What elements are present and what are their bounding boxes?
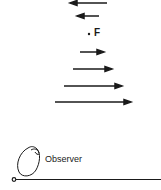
observer-head-icon [18, 147, 40, 176]
arrow-left-2 [77, 14, 99, 19]
arrow-right-1 [80, 50, 104, 55]
arrow-right-2 [73, 67, 112, 72]
ground-line [12, 178, 161, 182]
observer-label: Observer [45, 154, 82, 164]
arrow-right-4 [55, 100, 131, 105]
arrow-left-1 [70, 1, 107, 6]
arrow-right-3 [64, 84, 122, 89]
focus-label: F [94, 27, 100, 38]
focus-point [88, 33, 90, 35]
